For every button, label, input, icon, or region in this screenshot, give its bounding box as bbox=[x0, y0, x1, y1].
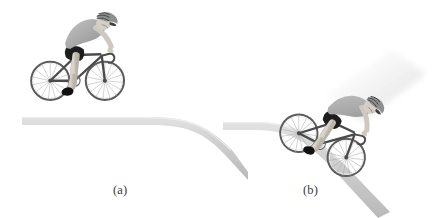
cyclist-a bbox=[31, 12, 124, 100]
panel-label-a: (a) bbox=[113, 183, 127, 198]
panel-label-b: (b) bbox=[303, 183, 318, 198]
figure-canvas bbox=[0, 0, 446, 218]
panel-b-group bbox=[223, 50, 426, 218]
figure-root: (a) (b) bbox=[0, 0, 446, 218]
road-a bbox=[22, 117, 248, 180]
panel-a-group bbox=[22, 12, 248, 180]
